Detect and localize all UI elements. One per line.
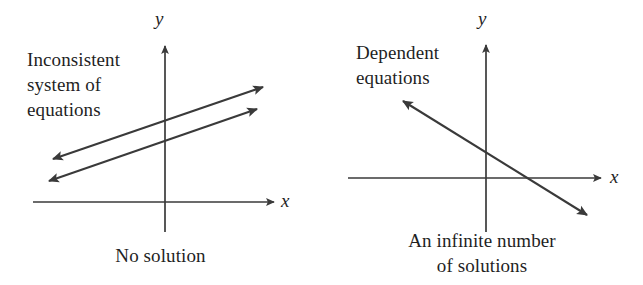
x-axis-label: x xyxy=(281,190,289,212)
caption-no-solution: No solution xyxy=(0,243,321,268)
figure-two-panel-linear-systems: y x Inconsistent system of equations No … xyxy=(0,0,643,285)
x-axis-label: x xyxy=(610,166,618,188)
y-axis-label: y xyxy=(478,8,486,30)
line-1 xyxy=(403,101,587,215)
caption-infinite-solutions: An infinite number of solutions xyxy=(321,228,643,278)
annotation-inconsistent-system: Inconsistent system of equations xyxy=(27,47,120,122)
y-axis-label: y xyxy=(155,8,163,30)
annotation-dependent-equations: Dependent equations xyxy=(356,40,439,90)
panel-inconsistent-system: y x Inconsistent system of equations No … xyxy=(0,0,321,285)
panel-dependent-equations: y x Dependent equations An infinite numb… xyxy=(321,0,643,285)
